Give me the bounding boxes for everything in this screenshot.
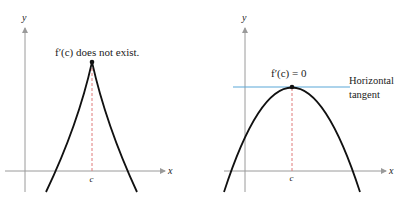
left-x-axis-label: x (167, 165, 173, 176)
left-graph: y x c f′(c) does not exist. (5, 12, 173, 192)
left-cusp-curve (46, 62, 137, 192)
left-annotation: f′(c) does not exist. (55, 46, 140, 59)
right-annotation: f′(c) = 0 (271, 67, 307, 80)
left-cusp-point (90, 60, 95, 65)
right-y-axis-label: y (241, 12, 247, 23)
tangent-label-line2: tangent (349, 89, 380, 100)
right-c-tick-label: c (290, 173, 294, 183)
right-graph: y x c f′(c) = 0 Horizontal tangent (224, 12, 394, 192)
figure-canvas: y x c f′(c) does not exist. y x c f′(c) … (0, 0, 408, 204)
left-y-axis-label: y (21, 12, 27, 23)
left-c-tick-label: c (90, 174, 94, 184)
tangent-label-line1: Horizontal (349, 75, 394, 86)
right-x-axis-label: x (388, 165, 394, 176)
right-max-point (290, 85, 295, 90)
